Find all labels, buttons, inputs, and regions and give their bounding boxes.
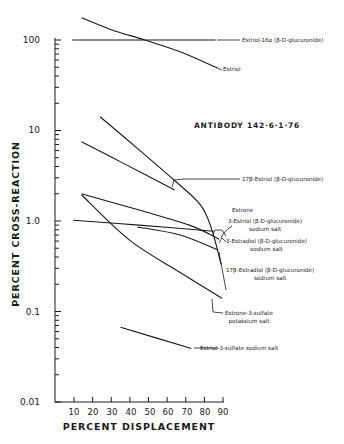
x-tick-50: 50 [145, 407, 156, 417]
x-tick-20: 20 [88, 407, 99, 417]
label-3-estradiol: 3-Estradiol (β-D-glucuronide) sodium sal… [226, 237, 307, 253]
x-tick-90: 90 [218, 407, 229, 417]
curve-5 [81, 194, 219, 239]
x-tick-40: 40 [126, 407, 137, 417]
chart-title: ANTIBODY 142·6·1·76 [194, 121, 300, 130]
x-tick-10: 10 [69, 407, 80, 417]
y-tick-10: 10 [0, 125, 40, 135]
y-tick-1: 1.0 [0, 216, 40, 226]
curve-2 [81, 142, 174, 190]
label-3-estriol: 3-Estriol (β-D-glucuronide) sodium salt [228, 217, 302, 233]
label-17b-estriol: 17β-Estriol (β-D-glucuronide) [242, 175, 323, 183]
x-tick-80: 80 [200, 407, 211, 417]
curve-1 [81, 18, 217, 68]
x-tick-60: 60 [163, 407, 174, 417]
y-tick-0.1: 0.1 [0, 307, 40, 317]
y-tick-0.01: 0.01 [0, 397, 40, 407]
label-17b-estradiol: 17β-Estradiol (β-D-glucuronide) sodium s… [226, 266, 314, 282]
x-axis-label: PERCENT DISPLACEMENT [63, 421, 215, 432]
y-tick-100: 100 [0, 35, 40, 45]
x-tick-30: 30 [107, 407, 118, 417]
x-ticks [74, 397, 223, 402]
label-estriol-16a: Estriol-16α (β-D-glucuronide) [242, 36, 323, 44]
curve-7 [81, 195, 222, 299]
label-estrone-3-sulfate: Estrone-3-sulfate potassium salt [225, 309, 273, 325]
label-leaders [172, 40, 240, 348]
curves [72, 18, 222, 349]
curve-3 [100, 117, 221, 265]
label-estriol: Estriol [223, 65, 240, 73]
y-minor-ticks [55, 40, 61, 402]
x-tick-70: 70 [182, 407, 193, 417]
curve-8 [121, 327, 192, 348]
label-estrone: Estrone [232, 206, 253, 214]
label-estriol-3-sulfate: Estriol-3-sulfate sodium salt [200, 344, 278, 352]
